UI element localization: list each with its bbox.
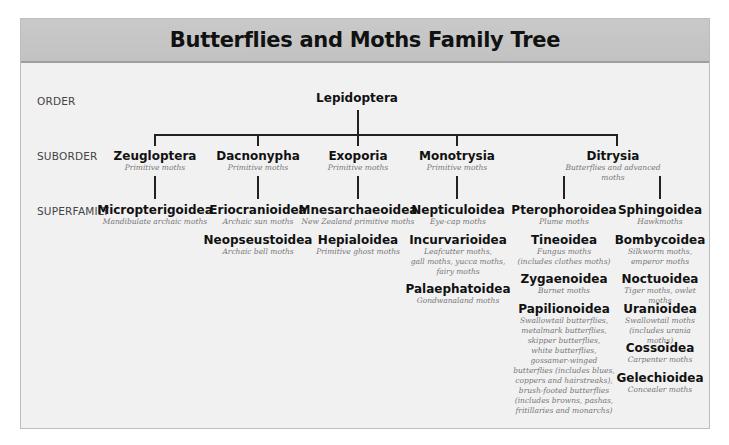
rank-label-order: ORDER (37, 95, 76, 107)
suborder-node-dacnonypha: Dacnonypha Primitive moths (216, 149, 300, 173)
superfamily-node-cossoidea: Cossoidea Carpenter moths (626, 341, 695, 365)
connector-dacnonypha (257, 134, 259, 146)
connector-zeugloptera (154, 134, 156, 146)
superfamily-node-tineoidea: Tineoidea Fungus moths (includes clothes… (518, 233, 611, 267)
connector-order-down (357, 110, 359, 135)
suborder-node-exoporia: Exoporia Primitive moths (328, 149, 388, 173)
superfamily-node-bombycoidea: Bombycoidea Silkworm moths, emperor moth… (615, 233, 706, 267)
superfamily-node-nepticuloidea: Nepticuloidea Eye-cap moths (411, 203, 505, 227)
superfamily-node-papilionoidea: Papilionoidea Swallowtail butterflies, m… (513, 302, 615, 416)
connector-dacnonypha-down (257, 176, 259, 199)
superfamily-node-neopseustoidea: Neopseustoidea Archaic bell moths (204, 233, 313, 257)
superfamily-node-mnesarchaeoidea: Mnesarchaeoidea New Zealand primitive mo… (299, 203, 418, 227)
superfamily-node-micropterigoidea: Micropterigoidea Mandibulate archaic mot… (97, 203, 213, 227)
superfamily-node-noctuoidea: Noctuoidea Tiger moths, owlet moths (622, 272, 699, 306)
connector-zeugloptera-down (154, 176, 156, 199)
superfamily-node-hepialoidea: Hepialoidea Primitive ghost moths (316, 233, 400, 257)
superfamily-node-uranioidea: Uranioidea Swallowtail moths (includes u… (623, 302, 697, 346)
superfamily-node-sphingoidea: Sphingoidea Hawkmoths (618, 203, 702, 227)
superfamily-node-zygaenoidea: Zygaenoidea Burnet moths (520, 272, 607, 296)
superfamily-node-pterophoroidea: Pterophoroidea Plume moths (511, 203, 616, 227)
node-name: Lepidoptera (316, 91, 398, 105)
connector-exoporia-down (357, 176, 359, 199)
suborder-node-monotrysia: Monotrysia Primitive moths (419, 149, 495, 173)
rank-label-suborder: SUBORDER (37, 150, 98, 162)
connector-suborder-bar (154, 134, 617, 136)
superfamily-node-gelechioidea: Gelechioidea Concealer moths (616, 371, 703, 395)
suborder-node-zeugloptera: Zeugloptera Primitive moths (114, 149, 197, 173)
connector-exoporia (357, 134, 359, 146)
superfamily-node-palaephatoidea: Palaephatoidea Gondwanaland moths (405, 282, 510, 306)
suborder-node-ditrysia: Ditrysia Butterflies and advanced moths (555, 149, 671, 183)
title-banner: Butterflies and Moths Family Tree (21, 19, 709, 63)
connector-monotrysia-down (456, 176, 458, 199)
connector-ditrysia (616, 134, 618, 146)
order-node-lepidoptera: Lepidoptera (316, 91, 398, 105)
diagram-title: Butterflies and Moths Family Tree (170, 28, 560, 52)
connector-monotrysia (456, 134, 458, 146)
superfamily-node-eriocranioidea: Eriocranioidea Archaic sun moths (209, 203, 306, 227)
superfamily-node-incurvarioidea: Incurvarioidea Leafcutter moths, gall mo… (409, 233, 507, 277)
